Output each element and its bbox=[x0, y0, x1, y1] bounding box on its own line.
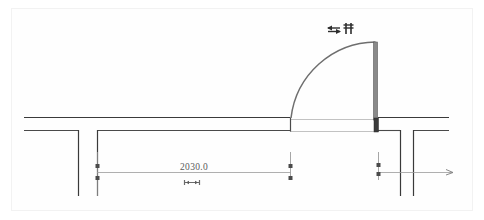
dimension-value-label: 2030.0 bbox=[180, 162, 208, 172]
door-jamb-block bbox=[374, 118, 379, 132]
swing-marker-left-icon bbox=[327, 26, 341, 35]
dimension-sub-marker-icon bbox=[184, 180, 200, 185]
screenshot-canvas: 2030.0 bbox=[0, 0, 484, 220]
floor-plan-drawing: 2030.0 bbox=[0, 0, 484, 220]
door-swing-arc bbox=[291, 42, 376, 118]
door-swing-markers-group bbox=[327, 23, 354, 34]
door-leaf bbox=[374, 42, 378, 120]
swing-marker-right-icon bbox=[344, 23, 354, 34]
